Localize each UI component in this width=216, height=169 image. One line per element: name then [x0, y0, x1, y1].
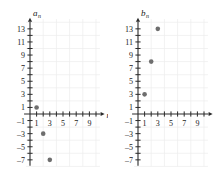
x-tick-label: 9	[87, 119, 91, 128]
y-tick-label: 5	[129, 77, 133, 86]
data-point	[142, 92, 147, 97]
y-tick-label: 3	[129, 90, 133, 99]
x-tick-label: 7	[74, 119, 78, 128]
scatter-chart-b: 13579131197531–1–3–5–7bn	[108, 0, 216, 169]
y-tick-label: 13	[125, 25, 133, 34]
y-tick-label: 13	[17, 25, 25, 34]
y-axis-label-subscript: n	[146, 13, 149, 19]
y-axis-label-subscript: n	[38, 13, 41, 19]
data-point	[156, 27, 161, 32]
y-tick-label: –3	[124, 130, 133, 139]
y-tick-label: –5	[124, 143, 133, 152]
y-tick-label: 11	[125, 38, 133, 47]
y-tick-label: 3	[21, 90, 25, 99]
axes-group	[132, 18, 213, 166]
y-tick-label: 9	[129, 51, 133, 60]
axes-group	[24, 18, 105, 166]
x-tick-label: 3	[48, 119, 52, 128]
x-tick-label: 1	[143, 119, 147, 128]
y-tick-label: –1	[16, 117, 25, 126]
y-tick-label: 9	[21, 51, 25, 60]
x-tick-label: 7	[182, 119, 186, 128]
y-tick-label: 11	[17, 38, 25, 47]
y-tick-label: –3	[16, 130, 25, 139]
y-tick-label: 5	[21, 77, 25, 86]
chart-panel-b: 13579131197531–1–3–5–7bn	[108, 0, 216, 169]
y-axis-label: an	[33, 8, 41, 19]
y-tick-label: 1	[21, 103, 25, 112]
y-tick-label: 1	[129, 103, 133, 112]
data-point	[149, 59, 154, 64]
y-axis-label: bn	[141, 8, 149, 19]
grid-group	[26, 19, 100, 166]
x-axis-arrowhead	[209, 112, 213, 116]
x-tick-label: 5	[61, 119, 65, 128]
y-tick-label: –5	[16, 143, 25, 152]
chart-panel-a: 13579131197531–1–3–5–7ann	[0, 0, 108, 169]
axis-name-group: bn	[141, 8, 149, 19]
x-axis-arrowhead	[101, 112, 105, 116]
x-tick-label: 9	[195, 119, 199, 128]
figure-container: 13579131197531–1–3–5–7ann 13579131197531…	[0, 0, 216, 169]
y-tick-label: –7	[16, 156, 25, 165]
y-tick-label: –7	[124, 156, 133, 165]
scatter-chart-a: 13579131197531–1–3–5–7ann	[0, 0, 108, 169]
x-tick-label: 1	[35, 119, 39, 128]
data-point	[34, 105, 39, 110]
x-tick-label: 3	[156, 119, 160, 128]
axis-name-group: ann	[33, 8, 108, 120]
x-tick-label: 5	[169, 119, 173, 128]
y-tick-label: –1	[124, 117, 133, 126]
y-axis-arrowhead	[28, 18, 32, 22]
y-axis-arrowhead	[136, 18, 140, 22]
y-tick-label: 7	[129, 64, 133, 73]
y-tick-label: 7	[21, 64, 25, 73]
data-point	[41, 131, 46, 136]
data-point	[48, 158, 53, 163]
